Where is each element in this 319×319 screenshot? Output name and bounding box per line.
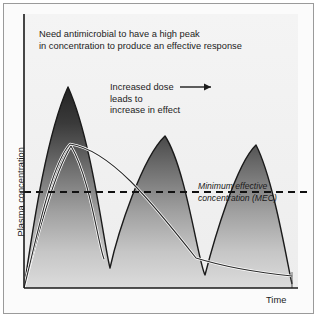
chart-title-line-2: in concentration to produce an effective… xyxy=(39,41,242,51)
x-axis-label: Time xyxy=(266,295,286,307)
chart-title-line-1: Need antimicrobial to have a high peak xyxy=(39,29,200,39)
mec-label: Minimum effective concentration (MEC) xyxy=(198,181,277,204)
chart-title: Need antimicrobial to have a high peak i… xyxy=(39,29,242,52)
y-axis-label: Plasma concentration xyxy=(16,137,28,247)
increased-dose-line-3: increase in effect xyxy=(110,105,180,115)
figure-container: Need antimicrobial to have a high peak i… xyxy=(0,0,319,319)
mec-label-line-1: Minimum effective xyxy=(198,181,267,191)
increased-dose-line-1: Increased dose xyxy=(110,82,174,92)
mec-label-line-2: concentration (MEC) xyxy=(198,193,277,203)
increased-dose-line-2: leads to xyxy=(110,94,143,104)
increased-dose-annotation: Increased dose leads to increase in effe… xyxy=(110,82,180,117)
